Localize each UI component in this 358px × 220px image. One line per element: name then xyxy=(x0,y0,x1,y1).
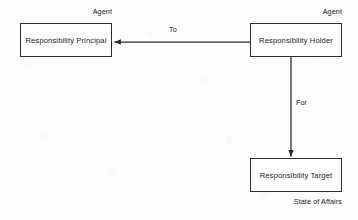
stereotype-responsibility-holder: Agent xyxy=(282,7,342,16)
stereotype-responsibility-principal: Agent xyxy=(52,7,112,16)
node-responsibility-holder[interactable]: Responsibility Holder xyxy=(250,23,342,57)
node-label-responsibility-target: Responsibility Target xyxy=(260,171,332,180)
diagram-canvas: Agent Responsibility Principal Agent Res… xyxy=(0,0,358,220)
stereotype-responsibility-target: State of Affairs xyxy=(272,197,342,206)
node-responsibility-principal[interactable]: Responsibility Principal xyxy=(20,23,112,57)
edge-label-to: To xyxy=(169,25,177,34)
node-label-responsibility-holder: Responsibility Holder xyxy=(259,36,333,45)
node-responsibility-target[interactable]: Responsibility Target xyxy=(250,158,342,192)
edge-label-for: For xyxy=(296,98,307,107)
node-label-responsibility-principal: Responsibility Principal xyxy=(26,36,107,45)
